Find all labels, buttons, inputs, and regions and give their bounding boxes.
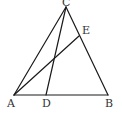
label-a: A xyxy=(6,97,16,110)
segment-bc xyxy=(66,7,108,95)
triangle-diagram: C E A D B xyxy=(0,0,122,122)
label-b: B xyxy=(105,97,113,110)
segment-ca xyxy=(14,7,66,95)
segment-ae xyxy=(14,36,79,95)
label-e: E xyxy=(82,24,90,37)
label-c: C xyxy=(62,0,70,9)
label-d: D xyxy=(42,97,51,110)
